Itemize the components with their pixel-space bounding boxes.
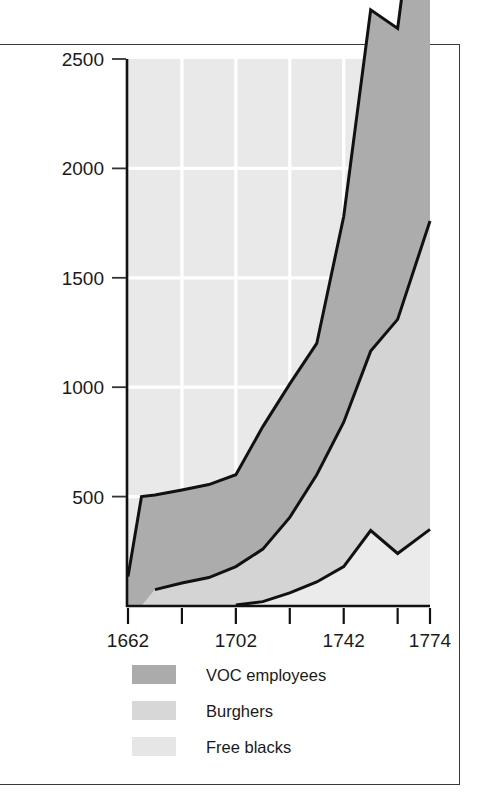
y-tick-label: 1500 <box>62 268 104 289</box>
y-tick-label: 500 <box>72 487 104 508</box>
y-tick-label: 2500 <box>62 49 104 70</box>
y-axis-ticks <box>112 59 126 497</box>
figure-root: 5001000150020002500 1662170217421774 VOC… <box>0 0 484 811</box>
legend-label: VOC employees <box>206 666 326 684</box>
chart-legend: VOC employeesBurghersFree blacks <box>132 665 326 756</box>
x-axis-ticks <box>128 608 430 624</box>
x-tick-label: 1702 <box>215 630 257 651</box>
legend-swatch <box>132 737 176 756</box>
y-tick-label: 2000 <box>62 158 104 179</box>
population-area-chart: 5001000150020002500 1662170217421774 VOC… <box>0 0 484 811</box>
chart-canvas: 5001000150020002500 1662170217421774 VOC… <box>0 0 484 811</box>
legend-swatch <box>132 665 176 684</box>
y-axis-tick-labels: 5001000150020002500 <box>62 49 104 508</box>
x-tick-label: 1742 <box>323 630 365 651</box>
legend-label: Free blacks <box>206 738 291 756</box>
x-tick-label: 1774 <box>409 630 452 651</box>
legend-swatch <box>132 701 176 720</box>
x-axis-tick-labels: 1662170217421774 <box>107 630 452 651</box>
legend-label: Burghers <box>206 702 273 720</box>
x-tick-label: 1662 <box>107 630 149 651</box>
y-tick-label: 1000 <box>62 377 104 398</box>
